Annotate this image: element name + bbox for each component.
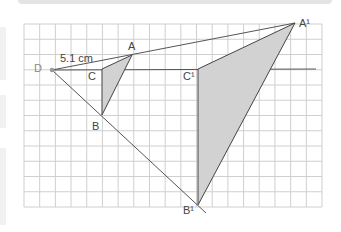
- measurement-label: 5.1 cm: [60, 52, 93, 64]
- label-a-prime: A¹: [299, 17, 310, 29]
- label-b: B: [92, 120, 99, 132]
- label-b-prime: B¹: [183, 204, 194, 216]
- label-c-prime: C¹: [183, 70, 195, 82]
- enlargement-diagram: 5.1 cm D A C B A¹ C¹ B¹: [0, 0, 341, 232]
- label-d: D: [34, 62, 42, 74]
- centre-point-d: [50, 68, 55, 73]
- label-a: A: [128, 40, 136, 52]
- label-c: C: [88, 70, 96, 82]
